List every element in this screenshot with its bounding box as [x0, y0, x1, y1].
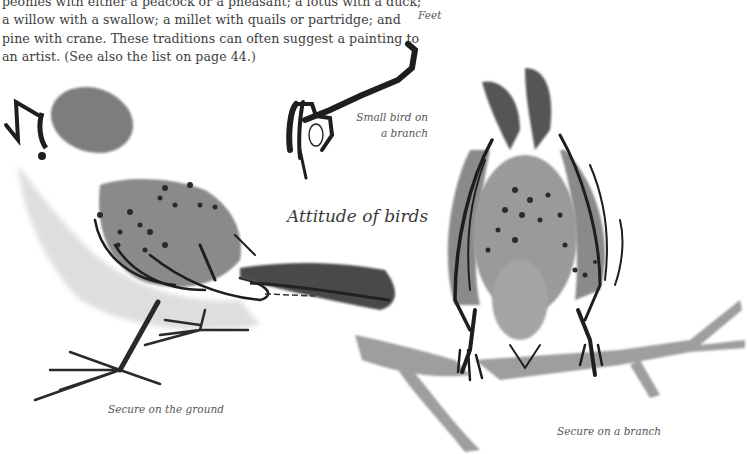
section-title: Attitude of birds [287, 206, 428, 226]
caption-small-bird-line1: Small bird on [340, 109, 428, 125]
bird-standing-on-ground [6, 77, 395, 400]
caption-ground: Secure on the ground [108, 401, 224, 417]
caption-branch: Secure on a branch [557, 423, 661, 439]
caption-small-bird-line2: a branch [340, 125, 428, 141]
caption-small-bird: Small bird on a branch [340, 109, 428, 141]
illustrations [0, 0, 749, 454]
caption-feet: Feet [418, 7, 441, 23]
